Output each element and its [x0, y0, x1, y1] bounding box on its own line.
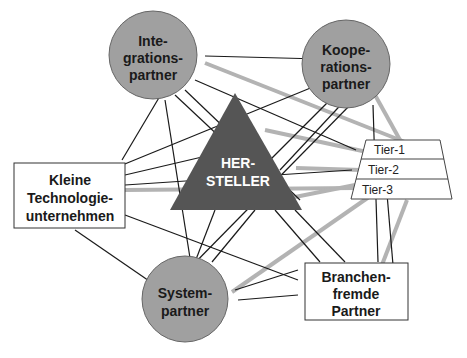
- node-label: Kleine: [49, 172, 91, 188]
- node-label: rations-: [320, 59, 372, 75]
- node-label: partner: [129, 67, 178, 83]
- node-label: partner: [322, 76, 371, 92]
- node-label: unternehmen: [26, 208, 115, 224]
- center-label: HER-: [221, 155, 256, 171]
- node-label: fremde: [333, 286, 380, 302]
- node-integrationspartner: Inte- grations- partner: [109, 11, 197, 99]
- node-label: Technologie-: [27, 190, 113, 206]
- tier-1-label: Tier-1: [374, 143, 405, 157]
- tier-3-label: Tier-3: [362, 183, 393, 197]
- node-label: Partner: [331, 303, 381, 319]
- node-kooperationspartner: Koope- rations- partner: [302, 20, 390, 108]
- node-tiers: Tier-1 Tier-2 Tier-3: [351, 140, 452, 199]
- node-hersteller: HER- STELLER: [170, 93, 302, 210]
- node-label: System-: [158, 285, 213, 301]
- node-label: Branchen-: [321, 269, 391, 285]
- center-label: STELLER: [206, 173, 270, 189]
- node-kleine-technologieunternehmen: Kleine Technologie- unternehmen: [14, 163, 125, 228]
- node-label: partner: [161, 303, 210, 319]
- node-systempartner: System- partner: [142, 256, 228, 342]
- node-label: Koope-: [322, 42, 371, 58]
- node-label: Inte-: [138, 33, 168, 49]
- node-branchenfremde-partner: Branchen- fremde Partner: [305, 263, 408, 320]
- tier-2-label: Tier-2: [368, 163, 399, 177]
- network-diagram: Inte- grations- partner Koope- rations- …: [0, 0, 467, 358]
- node-label: grations-: [123, 50, 183, 66]
